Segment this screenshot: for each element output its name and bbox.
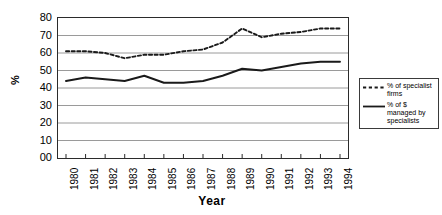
series-line xyxy=(66,29,340,59)
y-tick-label: 00 xyxy=(24,152,52,163)
legend-entry: % of $ managed by specialists xyxy=(362,101,436,125)
y-tick-label: 10 xyxy=(24,135,52,146)
x-axis-tick-labels: 1980198119821983198419851986198719881989… xyxy=(57,160,349,194)
x-tick-label: 1987 xyxy=(206,156,218,190)
x-tick-label: 1981 xyxy=(89,156,101,190)
x-tick-label: 1992 xyxy=(304,156,316,190)
legend-label: % of $ managed by specialists xyxy=(386,101,436,125)
x-tick-label: 1994 xyxy=(343,156,355,190)
x-tick-label: 1989 xyxy=(245,156,257,190)
legend-entry: % of specialist firms xyxy=(362,82,436,98)
plot-area xyxy=(57,17,349,159)
line-chart-figure: % 807060504030201000 1980198119821983198… xyxy=(0,0,442,215)
y-tick-label: 70 xyxy=(24,30,52,41)
y-tick-label: 40 xyxy=(24,82,52,93)
y-tick-label: 80 xyxy=(24,12,52,23)
x-tick-label: 1990 xyxy=(265,156,277,190)
x-tick-label: 1983 xyxy=(128,156,140,190)
legend-label: % of specialist firms xyxy=(386,82,436,98)
y-tick-label: 50 xyxy=(24,65,52,76)
x-tick-label: 1991 xyxy=(284,156,296,190)
x-tick-label: 1980 xyxy=(69,156,81,190)
y-tick-label: 30 xyxy=(24,100,52,111)
x-tick-label: 1986 xyxy=(186,156,198,190)
x-tick-label: 1988 xyxy=(226,156,238,190)
x-axis-title: Year xyxy=(157,194,267,208)
gridlines xyxy=(58,36,348,159)
x-tick-label: 1993 xyxy=(323,156,335,190)
legend-solid-line-icon xyxy=(362,101,386,112)
x-tick-label: 1984 xyxy=(147,156,159,190)
series-lines xyxy=(66,29,340,83)
plot-svg xyxy=(58,18,348,158)
y-axis-tick-labels: 807060504030201000 xyxy=(24,11,52,165)
y-tick-label: 20 xyxy=(24,117,52,128)
series-line xyxy=(66,62,340,83)
y-tick-label: 60 xyxy=(24,47,52,58)
chart-legend: % of specialist firms% of $ managed by s… xyxy=(359,78,439,129)
x-tick-label: 1982 xyxy=(108,156,120,190)
legend-dashed-line-icon xyxy=(362,82,386,93)
x-tick-label: 1985 xyxy=(167,156,179,190)
